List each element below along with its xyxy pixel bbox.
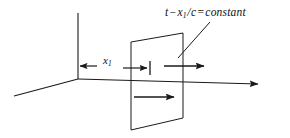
distance-label: x1 <box>103 54 112 68</box>
figure-canvas: t−x1/c=constant x1 <box>0 0 290 138</box>
diagram-svg <box>0 0 290 138</box>
axes-group <box>14 13 258 96</box>
depth-axis <box>14 79 78 96</box>
equation-rhs: constant <box>205 6 246 18</box>
equation-equals: = <box>196 6 205 18</box>
equation-label: t−x1/c=constant <box>165 6 246 20</box>
distance-subscript: 1 <box>108 59 112 68</box>
dimension-group <box>80 61 150 75</box>
horizontal-axis <box>78 79 258 84</box>
